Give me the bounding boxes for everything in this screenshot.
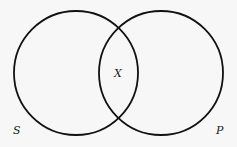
set-label-s: S bbox=[13, 124, 21, 137]
venn-svg: X S P bbox=[0, 0, 237, 147]
venn-diagram: X S P bbox=[0, 0, 237, 147]
intersection-label: X bbox=[113, 67, 123, 80]
set-label-p: P bbox=[215, 124, 224, 137]
